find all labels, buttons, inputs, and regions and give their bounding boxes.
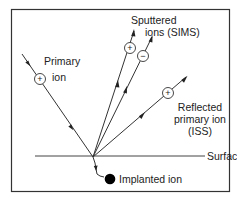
sputtered-negative-symbol: − <box>140 51 145 61</box>
primary-charge-symbol: + <box>37 74 42 84</box>
arrowhead-icon <box>25 61 30 67</box>
sputtered-positive-symbol: + <box>127 43 132 53</box>
arrowhead-icon <box>181 76 187 83</box>
arrowhead-icon <box>94 166 98 171</box>
reflected-ion-label-line3: (ISS) <box>188 125 212 137</box>
reflected-charge-symbol: + <box>165 88 170 98</box>
reflected-ion-label: Reflected <box>178 101 223 113</box>
reflected-ion-label-line2: primary ion <box>174 113 226 125</box>
arrowhead-icon <box>123 86 127 94</box>
sputtered-positive-ion-path: + <box>93 29 136 157</box>
primary-ion-label-line2: ion <box>52 71 66 83</box>
implanted-ion-label: Implanted ion <box>119 173 182 185</box>
sputtered-negative-ion-path: − <box>93 35 153 157</box>
surface-label: Surface <box>207 150 237 162</box>
primary-ion-label: Primary <box>44 55 81 67</box>
primary-ion-path: + <box>22 54 93 157</box>
arrowhead-icon <box>139 112 145 119</box>
sputtered-ions-label-line2: ions (SIMS) <box>145 26 200 38</box>
implanted-ion-path <box>93 157 115 184</box>
arrowhead-icon <box>131 29 135 37</box>
sputtered-ions-label: Sputtered <box>131 14 177 26</box>
ion-interaction-diagram: Surface + Primary ion + − Sputtered ions… <box>0 0 237 200</box>
implanted-ion-dot <box>105 174 116 185</box>
